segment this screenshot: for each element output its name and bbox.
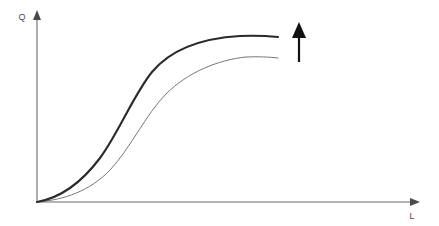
y-axis-label: Q bbox=[18, 12, 25, 22]
production-function-chart: Q L bbox=[0, 0, 439, 226]
chart-background bbox=[0, 0, 439, 226]
x-axis-label: L bbox=[409, 211, 414, 221]
figure-root: Q L bbox=[0, 0, 439, 226]
